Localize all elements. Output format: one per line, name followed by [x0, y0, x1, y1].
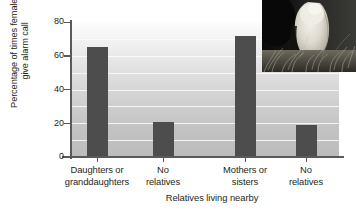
y-tick-label-40: 40: [24, 84, 64, 94]
x-tick-label-4-line-2: relatives: [260, 176, 352, 188]
y-tick-label-20: 20: [24, 118, 64, 128]
ground-squirrel-photo: [262, 0, 356, 72]
gridline: [71, 73, 339, 74]
gridline: [71, 106, 339, 107]
y-tick-60: [64, 55, 70, 56]
x-tick-3: [245, 157, 246, 162]
x-tick-1: [97, 157, 98, 162]
bar-mothers-or-sisters: [235, 36, 256, 158]
y-tick-40: [64, 89, 70, 90]
x-tick-label-2-line-1: No: [117, 164, 209, 176]
gridline: [71, 90, 339, 91]
y-tick-80: [64, 22, 70, 23]
x-axis-line: [62, 156, 344, 158]
x-tick-label-2-line-2: relatives: [117, 176, 209, 188]
y-tick-20: [64, 123, 70, 124]
x-tick-4: [306, 157, 307, 162]
bar-chart-figure: Percentage of times females give alarm c…: [0, 0, 356, 213]
x-axis-title: Relatives living nearby: [117, 192, 307, 203]
x-tick-label-4-line-1: No: [260, 164, 352, 176]
x-tick-label-2: No relatives: [117, 164, 209, 187]
bar-no-relatives-2: [296, 125, 317, 157]
y-tick-label-80: 80: [24, 16, 64, 26]
x-tick-label-4: No relatives: [260, 164, 352, 187]
bar-no-relatives-1: [153, 122, 174, 157]
y-axis-title-line-1: Percentage of times females: [9, 0, 20, 126]
x-tick-2: [163, 157, 164, 162]
y-axis-line: [70, 20, 72, 159]
y-tick-label-60: 60: [24, 50, 64, 60]
y-tick-label-0: 0: [24, 151, 64, 161]
bar-daughters-or-granddaughters: [87, 47, 108, 157]
y-tick-0: [64, 156, 70, 157]
